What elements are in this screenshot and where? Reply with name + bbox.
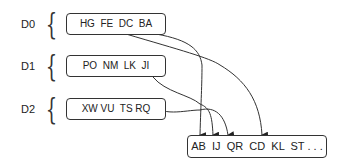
level-box-d2: XW VU TS RQ <box>66 98 166 120</box>
level-label-d2: D2 <box>21 103 35 115</box>
level-box-d1: PO NM LK JI <box>66 55 166 77</box>
level-label-d1: D1 <box>21 60 35 72</box>
brace-icon: { <box>46 9 57 39</box>
brace-icon: { <box>46 51 57 81</box>
level-label-d0: D0 <box>21 18 35 30</box>
level-box-d0: HG FE DC BA <box>66 13 166 35</box>
brace-icon: { <box>46 94 57 124</box>
output-box: AB IJ QR CD KL ST . . . <box>187 135 327 158</box>
